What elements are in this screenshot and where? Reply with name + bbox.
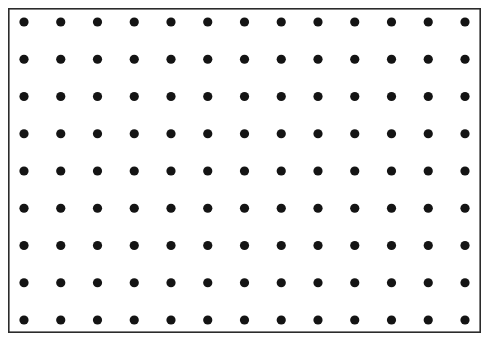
grid-dot — [19, 166, 28, 175]
grid-dot — [93, 315, 102, 324]
grid-dot — [460, 92, 469, 101]
grid-dot — [313, 92, 322, 101]
grid-dot — [387, 166, 396, 175]
grid-dot — [350, 166, 359, 175]
grid-dot — [277, 315, 286, 324]
grid-dot — [130, 241, 139, 250]
grid-dot — [313, 204, 322, 213]
grid-dot — [350, 92, 359, 101]
grid-dot — [130, 278, 139, 287]
dot-grid-figure — [0, 0, 489, 350]
grid-dot — [19, 241, 28, 250]
grid-dot — [424, 241, 433, 250]
grid-dot — [277, 278, 286, 287]
grid-dot — [19, 55, 28, 64]
grid-dot — [203, 278, 212, 287]
grid-dot — [277, 241, 286, 250]
grid-dot — [130, 315, 139, 324]
grid-dot — [313, 241, 322, 250]
grid-dot — [240, 315, 249, 324]
grid-dot — [350, 17, 359, 26]
grid-dot — [350, 315, 359, 324]
grid-dot — [203, 92, 212, 101]
grid-dot — [19, 129, 28, 138]
grid-dot — [56, 204, 65, 213]
grid-dot — [240, 55, 249, 64]
grid-dot — [130, 17, 139, 26]
grid-dot — [460, 315, 469, 324]
grid-dot — [203, 129, 212, 138]
grid-dot — [240, 17, 249, 26]
grid-dot — [19, 315, 28, 324]
grid-dot — [93, 278, 102, 287]
grid-dot — [350, 241, 359, 250]
grid-dot — [166, 166, 175, 175]
grid-dot — [19, 204, 28, 213]
grid-dot — [93, 92, 102, 101]
grid-dot — [130, 55, 139, 64]
grid-dot — [56, 278, 65, 287]
grid-dot — [277, 55, 286, 64]
grid-dot — [19, 278, 28, 287]
grid-dot — [313, 55, 322, 64]
grid-dot — [424, 17, 433, 26]
grid-dot — [350, 129, 359, 138]
grid-dot — [166, 129, 175, 138]
grid-dot — [203, 55, 212, 64]
grid-dot — [166, 204, 175, 213]
grid-dot — [460, 17, 469, 26]
grid-dot — [56, 129, 65, 138]
grid-dot — [387, 204, 396, 213]
grid-dot — [387, 17, 396, 26]
grid-dot — [387, 55, 396, 64]
grid-dot — [56, 17, 65, 26]
grid-dot — [277, 166, 286, 175]
grid-dot — [19, 17, 28, 26]
grid-dot — [460, 166, 469, 175]
grid-canvas — [0, 0, 489, 350]
grid-dot — [93, 241, 102, 250]
grid-dot — [460, 129, 469, 138]
grid-dot — [56, 55, 65, 64]
grid-dot — [203, 241, 212, 250]
grid-dot — [424, 55, 433, 64]
grid-dot — [424, 278, 433, 287]
grid-dot — [240, 278, 249, 287]
grid-dot — [277, 204, 286, 213]
grid-dot — [93, 166, 102, 175]
grid-dot — [130, 204, 139, 213]
grid-dot — [93, 55, 102, 64]
grid-dot — [240, 129, 249, 138]
grid-dot — [240, 92, 249, 101]
grid-dot — [130, 92, 139, 101]
grid-dot — [460, 204, 469, 213]
grid-dot — [424, 129, 433, 138]
grid-dot — [93, 204, 102, 213]
grid-dot — [424, 166, 433, 175]
grid-dot — [387, 241, 396, 250]
grid-dot — [56, 315, 65, 324]
grid-dot — [313, 315, 322, 324]
grid-dot — [424, 204, 433, 213]
grid-dot — [166, 278, 175, 287]
grid-dot — [350, 278, 359, 287]
grid-dot — [387, 278, 396, 287]
grid-dot — [350, 204, 359, 213]
grid-dot — [350, 55, 359, 64]
grid-dot — [166, 92, 175, 101]
grid-dot — [387, 315, 396, 324]
grid-dot — [166, 241, 175, 250]
grid-dot — [56, 241, 65, 250]
grid-dot — [277, 17, 286, 26]
grid-dot — [460, 241, 469, 250]
grid-dot — [130, 166, 139, 175]
grid-dot — [203, 315, 212, 324]
grid-dot — [313, 166, 322, 175]
grid-dot — [19, 92, 28, 101]
grid-dot — [277, 92, 286, 101]
grid-dot — [93, 129, 102, 138]
grid-dot — [56, 92, 65, 101]
grid-dot — [313, 278, 322, 287]
grid-dot — [56, 166, 65, 175]
grid-dot — [313, 17, 322, 26]
